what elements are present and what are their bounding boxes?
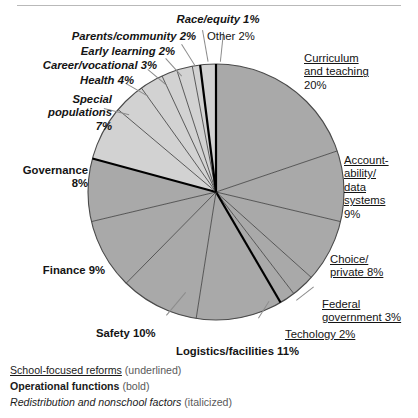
slice-label-accountability-data-systems: Account- ability/ data systems 9% [344,154,389,221]
legend-row-school-focused: School-focused reforms (underlined) [10,362,310,378]
slice-label-federal-government: Federal government 3% [322,298,401,325]
legend-row-operational: Operational functions (bold) [10,378,310,394]
slice-label-other: Other 2% [207,30,255,43]
pie-slice-group [88,64,344,320]
slice-label-curriculum-and-teaching: Curriculum and teaching 20% [304,52,369,92]
slice-label-technology: Techology 2% [285,328,355,341]
slice-label-choice-private: Choice/ private 8% [330,253,383,280]
legend-note-redistribution: (italicized) [184,396,232,408]
slice-label-parents-community: Parents/community 2% [0,30,196,43]
legend-key-school-focused: School-focused reforms [10,364,122,376]
slice-label-governance: Governance 8% [0,164,88,191]
legend-row-redistribution: Redistribution and nonschool factors (it… [10,394,310,410]
slice-label-logistics-facilities: Logistics/facilities 11% [176,345,299,358]
slice-label-career-vocational: Career/vocational 3% [0,59,157,72]
legend-key-operational: Operational functions [10,380,119,392]
legend-note-school-focused: (underlined) [125,364,182,376]
legend-key-redistribution: Redistribution and nonschool factors [10,396,181,408]
slice-label-health: Health 4% [0,74,134,87]
chart-legend: School-focused reforms (underlined) Oper… [10,362,310,410]
slice-label-early-learning: Early learning 2% [0,45,175,58]
slice-label-finance: Finance 9% [0,264,105,277]
chart-canvas: Race/equity 1% Other 2% Parents/communit… [0,0,418,418]
legend-note-operational: (bold) [122,380,149,392]
slice-label-safety: Safety 10% [96,327,156,340]
slice-label-special-populations: Special populations 7% [0,93,112,133]
slice-label-race-equity: Race/equity 1% [128,13,308,26]
